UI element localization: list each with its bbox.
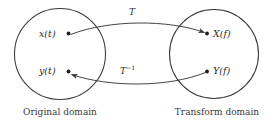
original-domain-circle [15, 9, 106, 100]
transform-domain-caption: Transform domain [164, 107, 270, 117]
point-Y-of-f [205, 70, 209, 74]
point-X-of-f [205, 32, 209, 36]
element-y-of-t: y(t) [39, 65, 56, 76]
forward-operator-symbol: T [129, 7, 135, 17]
point-x-of-t [67, 32, 71, 36]
inverse-operator-label: T−1 [120, 64, 135, 76]
forward-transform-arrow [71, 23, 205, 35]
forward-operator-label: T [129, 7, 135, 17]
element-x-of-t: x(t) [39, 28, 56, 39]
original-domain-caption: Original domain [14, 107, 106, 117]
point-y-of-t [67, 70, 71, 74]
inverse-transform-arrow [72, 73, 206, 85]
transform-domain-circle [170, 10, 259, 99]
element-X-of-f: X(f) [213, 28, 231, 39]
inverse-operator-exponent: −1 [126, 64, 135, 71]
transform-mapping-figure: x(t) y(t) X(f) Y(f) T T−1 Original domai… [0, 0, 275, 127]
element-Y-of-f: Y(f) [213, 65, 230, 76]
